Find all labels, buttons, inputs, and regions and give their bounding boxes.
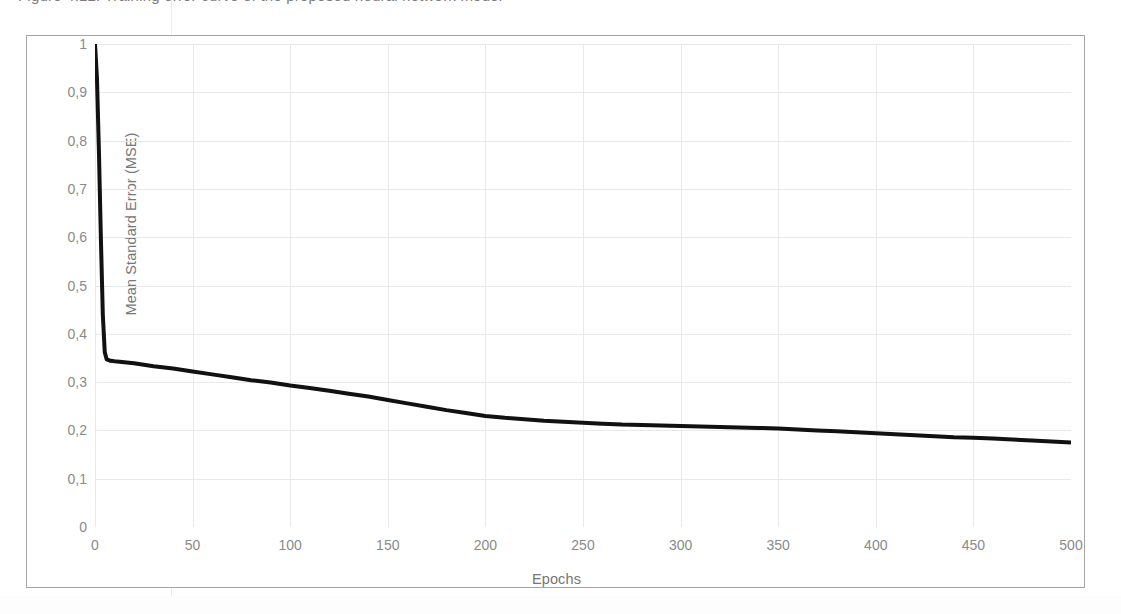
- chart-figure-frame: Mean Standard Error (MSE) Epochs 00,10,2…: [26, 35, 1085, 588]
- y-tick-label: 0,1: [33, 472, 87, 486]
- caption-remnant: Figure 4.12: Training error curve of the…: [0, 0, 1121, 14]
- x-tick-label: 200: [455, 538, 515, 552]
- scan-bottom-edge-artifact: [0, 596, 1121, 614]
- y-tick-label: 0,6: [33, 230, 87, 244]
- x-tick-label: 400: [846, 538, 906, 552]
- vertical-gridlines: [96, 44, 1072, 527]
- y-tick-label: 0,4: [33, 327, 87, 341]
- x-tick-label: 300: [651, 538, 711, 552]
- plot-area: [95, 44, 1071, 527]
- y-tick-label: 0,2: [33, 423, 87, 437]
- y-tick-label: 0: [33, 520, 87, 534]
- x-tick-label: 50: [163, 538, 223, 552]
- y-tick-label: 1: [33, 37, 87, 51]
- y-tick-label: 0,3: [33, 375, 87, 389]
- x-tick-label: 150: [358, 538, 418, 552]
- x-tick-label: 500: [1041, 538, 1101, 552]
- x-tick-label: 350: [748, 538, 808, 552]
- y-tick-label: 0,9: [33, 85, 87, 99]
- y-tick-label: 0,8: [33, 134, 87, 148]
- x-tick-label: 0: [65, 538, 125, 552]
- x-axis-title: Epochs: [27, 571, 1086, 587]
- line-chart-svg: [95, 44, 1071, 527]
- x-tick-label: 250: [553, 538, 613, 552]
- caption-text: Figure 4.12: Training error curve of the…: [18, 0, 502, 4]
- x-tick-label: 450: [943, 538, 1003, 552]
- y-tick-label: 0,5: [33, 279, 87, 293]
- x-tick-label: 100: [260, 538, 320, 552]
- y-tick-label: 0,7: [33, 182, 87, 196]
